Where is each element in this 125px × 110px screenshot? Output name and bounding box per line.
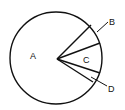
label-b: B xyxy=(109,17,115,27)
sector-line-b-upper xyxy=(57,25,91,59)
label-c: C xyxy=(83,55,90,65)
pie-diagram: A B C D xyxy=(0,0,125,110)
sector-line-b-lower xyxy=(57,43,100,59)
sector-line-d-upper xyxy=(57,59,100,73)
label-a: A xyxy=(30,51,36,61)
sector-lines xyxy=(57,25,100,82)
label-d: D xyxy=(108,84,115,94)
leader-line-b xyxy=(97,22,108,32)
